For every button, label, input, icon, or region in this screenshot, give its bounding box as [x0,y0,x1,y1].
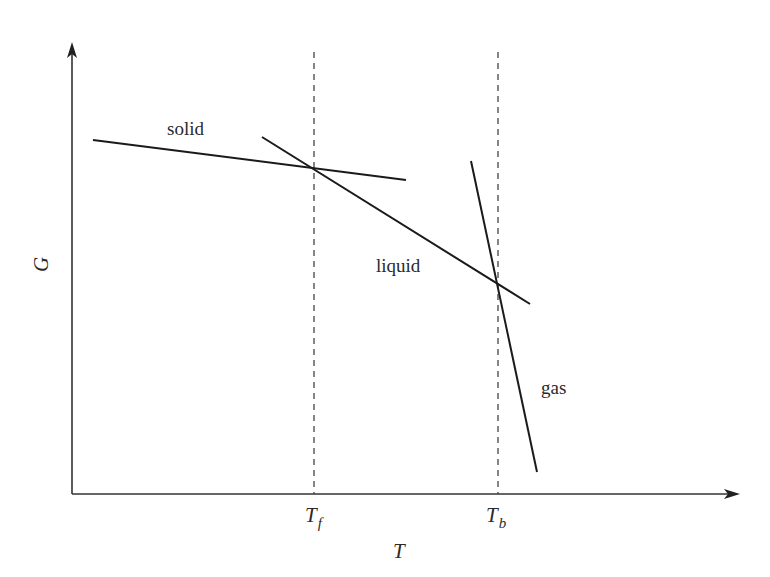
y-axis-label: G [31,257,52,272]
solid-label: solid [167,119,204,138]
tick-tb-sub: b [499,515,507,531]
tick-tf-main: T [305,503,317,527]
gas-label: gas [541,378,566,397]
y-axis [67,42,77,494]
tick-tb: Tb [486,505,506,526]
x-axis-label: T [393,541,405,562]
liquid-label: liquid [376,256,420,275]
tick-tb-main: T [486,503,498,527]
gibbs-energy-diagram [0,0,770,577]
tick-tf: Tf [305,505,322,526]
x-axis [72,489,740,499]
solid-line [93,140,406,180]
tick-tf-sub: f [318,515,322,531]
liquid-line [262,137,530,304]
gas-line [471,161,537,472]
